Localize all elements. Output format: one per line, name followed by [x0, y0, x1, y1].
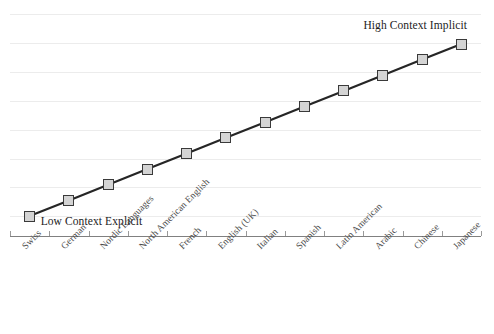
data-point-marker: [63, 195, 74, 206]
x-axis-tick: [363, 231, 364, 236]
data-point-marker: [456, 39, 467, 50]
data-point-marker: [417, 54, 428, 65]
x-axis-tick: [167, 231, 168, 236]
data-point-marker: [377, 70, 388, 81]
x-axis-tick: [481, 231, 482, 236]
x-axis-tick: [10, 231, 11, 236]
series-line-path: [0, 0, 494, 334]
x-axis-tick: [442, 231, 443, 236]
x-axis-tick: [246, 231, 247, 236]
x-axis-tick: [324, 231, 325, 236]
data-point-marker: [220, 132, 231, 143]
data-point-marker: [24, 211, 35, 222]
annotation-low-context: Low Context Explicit: [41, 215, 143, 227]
data-point-marker: [299, 101, 310, 112]
data-point-marker: [142, 164, 153, 175]
annotation-high-context: High Context Implicit: [363, 19, 467, 31]
x-axis-tick: [89, 231, 90, 236]
x-axis-tick: [206, 231, 207, 236]
data-point-marker: [103, 179, 114, 190]
x-axis-tick: [285, 231, 286, 236]
context-continuum-chart: SwissGermanNordic LanguagesNorth America…: [0, 0, 494, 334]
data-point-marker: [260, 117, 271, 128]
x-axis-tick: [403, 231, 404, 236]
data-point-marker: [338, 85, 349, 96]
data-point-marker: [181, 148, 192, 159]
x-axis-tick: [128, 231, 129, 236]
x-axis-tick: [49, 231, 50, 236]
